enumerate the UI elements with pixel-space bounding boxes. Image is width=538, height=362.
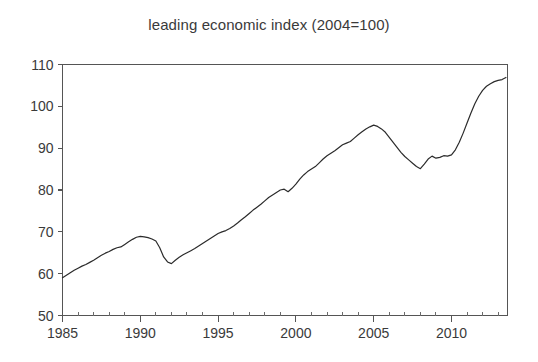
- x-tick-label: 1990: [125, 325, 156, 341]
- x-tick-label: 1985: [47, 325, 78, 341]
- chart-figure: leading economic index (2004=100) 506070…: [0, 0, 538, 362]
- y-tick-label: 80: [38, 182, 54, 198]
- x-tick-label: 2000: [280, 325, 311, 341]
- y-tick-label: 70: [38, 224, 54, 240]
- y-tick-label: 50: [38, 308, 54, 324]
- x-tick-label: 2010: [436, 325, 467, 341]
- x-tick-label: 1995: [203, 325, 234, 341]
- x-axis-minor-ticks: [78, 312, 498, 316]
- data-series-group: [63, 77, 506, 277]
- y-axis-ticks: [58, 65, 63, 316]
- x-axis-ticks: [63, 316, 452, 322]
- y-tick-label: 60: [38, 266, 54, 282]
- y-tick-label: 90: [38, 140, 54, 156]
- line-chart-plot: 5060708090100110 19851990199520002005201…: [0, 0, 538, 362]
- y-axis-tick-labels: 5060708090100110: [30, 57, 54, 324]
- y-tick-label: 110: [31, 57, 54, 73]
- x-tick-label: 2005: [358, 325, 389, 341]
- data-line-leading-economic-index: [63, 77, 506, 277]
- x-axis-tick-labels: 198519901995200020052010: [47, 325, 467, 341]
- y-tick-label: 100: [30, 98, 54, 114]
